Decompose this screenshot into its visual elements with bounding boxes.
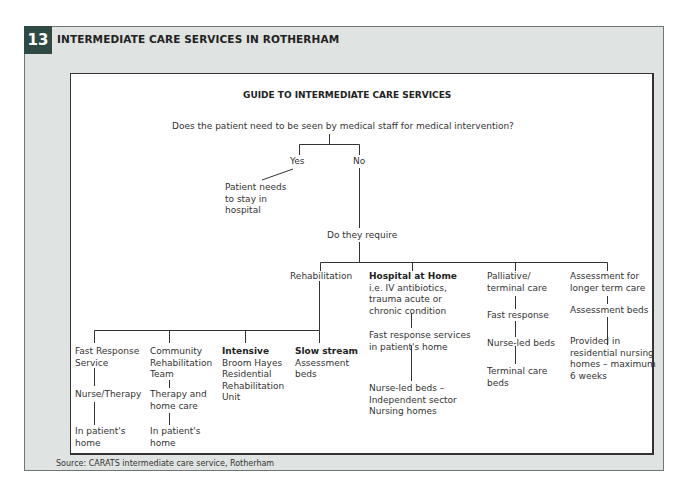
palliative-step1: Fast response bbox=[487, 310, 549, 322]
intensive-option: Intensive Broom Hayes Residential Rehabi… bbox=[222, 346, 284, 404]
final-line: 6 weeks bbox=[570, 371, 656, 383]
hospital-at-home: Hospital at Home i.e. IV antibiotics, tr… bbox=[369, 271, 457, 317]
location-line: In patient's bbox=[150, 426, 200, 438]
community-location: In patient's home bbox=[150, 426, 200, 449]
fast-response-service: Fast Response Service bbox=[75, 346, 139, 369]
community-title: Team bbox=[150, 369, 212, 381]
community-title: Rehabilitation bbox=[150, 358, 212, 370]
rehabilitation-label: Rehabilitation bbox=[290, 271, 352, 283]
location-line: In patient's bbox=[75, 426, 125, 438]
location-line: home bbox=[75, 438, 125, 450]
fast-response-location: In patient's home bbox=[75, 426, 125, 449]
yes-outcome-line: Patient needs bbox=[225, 182, 286, 194]
intensive-detail: Unit bbox=[222, 392, 284, 404]
do-they-require: Do they require bbox=[327, 230, 397, 242]
final-line: Independent sector bbox=[369, 395, 457, 407]
community-rehab-team: Community Rehabilitation Team bbox=[150, 346, 212, 381]
slow-stream-detail: beds bbox=[295, 369, 358, 381]
slow-stream-detail: Assessment bbox=[295, 358, 358, 370]
intensive-heading: Intensive bbox=[222, 346, 284, 358]
slow-stream-heading: Slow stream bbox=[295, 346, 358, 358]
palliative-line: Palliative/ bbox=[487, 271, 547, 283]
intensive-detail: Rehabilitation bbox=[222, 381, 284, 393]
final-line: Nursing homes bbox=[369, 406, 457, 418]
intensive-detail: Residential bbox=[222, 369, 284, 381]
palliative-step2: Nurse-led beds bbox=[487, 338, 555, 350]
question-text: Does the patient need to be seen by medi… bbox=[172, 121, 514, 133]
yes-outcome-line: hospital bbox=[225, 205, 286, 217]
yes-outcome: Patient needs to stay in hospital bbox=[225, 182, 286, 217]
hospital-at-home-step: Fast response services in patient's home bbox=[369, 330, 471, 353]
final-line: residential nursing bbox=[570, 348, 656, 360]
hospital-at-home-detail: chronic condition bbox=[369, 306, 457, 318]
hospital-at-home-detail: i.e. IV antibiotics, bbox=[369, 283, 457, 295]
step-line: in patient's home bbox=[369, 342, 471, 354]
no-label: No bbox=[353, 156, 365, 168]
intensive-detail: Broom Hayes bbox=[222, 358, 284, 370]
fast-response-title: Fast Response bbox=[75, 346, 139, 358]
fast-response-step: Nurse/Therapy bbox=[75, 389, 141, 401]
hospital-at-home-detail: trauma acute or bbox=[369, 294, 457, 306]
figure-number-badge: 13 bbox=[24, 26, 52, 54]
community-step-line: home care bbox=[150, 401, 207, 413]
final-line: Provided in bbox=[570, 336, 656, 348]
palliative-line: terminal care bbox=[487, 283, 547, 295]
location-line: home bbox=[150, 438, 200, 450]
assessment-final: Provided in residential nursing homes – … bbox=[570, 336, 656, 382]
hospital-at-home-final: Nurse-led beds – Independent sector Nurs… bbox=[369, 383, 457, 418]
figure-title: INTERMEDIATE CARE SERVICES IN ROTHERHAM bbox=[57, 33, 339, 45]
final-line: homes – maximum bbox=[570, 359, 656, 371]
assessment-label: Assessment for longer term care bbox=[570, 271, 645, 294]
hospital-at-home-heading: Hospital at Home bbox=[369, 271, 457, 283]
community-step: Therapy and home care bbox=[150, 389, 207, 412]
assessment-line: Assessment for bbox=[570, 271, 645, 283]
palliative-label: Palliative/ terminal care bbox=[487, 271, 547, 294]
fast-response-title: Service bbox=[75, 358, 139, 370]
source-note: Source: CARATS intermediate care service… bbox=[56, 459, 274, 468]
palliative-final: Terminal care beds bbox=[487, 366, 547, 389]
assessment-line: longer term care bbox=[570, 283, 645, 295]
yes-label: Yes bbox=[290, 156, 305, 168]
community-step-line: Therapy and bbox=[150, 389, 207, 401]
yes-outcome-line: to stay in bbox=[225, 194, 286, 206]
final-line: beds bbox=[487, 378, 547, 390]
community-title: Community bbox=[150, 346, 212, 358]
final-line: Terminal care bbox=[487, 366, 547, 378]
slow-stream-option: Slow stream Assessment beds bbox=[295, 346, 358, 381]
final-line: Nurse-led beds – bbox=[369, 383, 457, 395]
step-line: Fast response services bbox=[369, 330, 471, 342]
assessment-step: Assessment beds bbox=[570, 305, 649, 317]
diagram-title: GUIDE TO INTERMEDIATE CARE SERVICES bbox=[243, 90, 451, 100]
